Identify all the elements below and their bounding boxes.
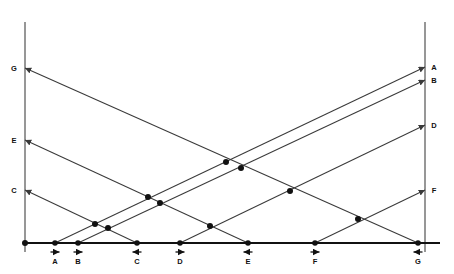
baseline-group	[22, 240, 440, 246]
left-axis-label-E: E	[11, 136, 16, 145]
ray-line-F	[315, 190, 425, 243]
baseline-point-G	[415, 240, 421, 246]
baseline-point-A	[52, 240, 58, 246]
ray-reflection-diagram: ABCDEFGGECABDF	[0, 0, 454, 274]
baseline-point-B	[75, 240, 81, 246]
baseline-point-D	[177, 240, 183, 246]
baseline-label-E: E	[245, 257, 250, 266]
baseline-point-F	[312, 240, 318, 246]
intersection-dot	[92, 221, 98, 227]
rays-group	[25, 67, 425, 243]
right-axis-label-F: F	[432, 186, 437, 195]
right-axis-label-D: D	[431, 121, 437, 130]
baseline-point-C	[134, 240, 140, 246]
ray-line-E	[25, 140, 248, 243]
diagram-canvas: ABCDEFGGECABDF	[0, 0, 454, 274]
baseline-label-C: C	[134, 257, 140, 266]
intersection-dot	[223, 159, 229, 165]
baseline-label-D: D	[177, 257, 183, 266]
right-axis-label-A: A	[431, 63, 437, 72]
baseline-point-E	[245, 240, 251, 246]
intersection-dot	[157, 200, 163, 206]
intersection-dot	[145, 194, 151, 200]
intersection-dot	[105, 225, 111, 231]
ray-line-B	[78, 80, 425, 243]
baseline-label-A: A	[52, 257, 58, 266]
intersection-dot	[207, 223, 213, 229]
right-axis-label-B: B	[431, 76, 437, 85]
ray-line-D	[180, 125, 425, 243]
baseline-label-F: F	[313, 257, 318, 266]
axes-group	[25, 22, 425, 252]
baseline-label-G: G	[415, 257, 421, 266]
origin-dot	[22, 240, 28, 246]
intersection-dot	[287, 188, 293, 194]
intersection-dot	[355, 216, 361, 222]
labels-group: ABCDEFGGECABDF	[11, 63, 437, 266]
ray-line-C	[25, 190, 137, 243]
left-axis-label-C: C	[11, 186, 17, 195]
baseline-label-B: B	[75, 257, 81, 266]
left-axis-label-G: G	[11, 64, 17, 73]
intersection-dot	[238, 165, 244, 171]
